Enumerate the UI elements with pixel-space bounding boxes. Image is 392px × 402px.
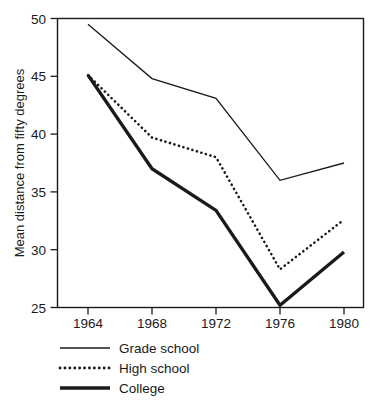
- y-tick-label-50: 50: [31, 12, 46, 27]
- legend-item-grade-school[interactable]: Grade school: [60, 341, 199, 356]
- x-axis-ticks: [88, 308, 344, 315]
- chart-legend: Grade school High school College: [60, 341, 199, 396]
- legend-label-high-school: High school: [119, 361, 190, 376]
- legend-item-college[interactable]: College: [60, 381, 165, 396]
- x-tick-label-1976: 1976: [265, 316, 295, 331]
- y-tick-label-40: 40: [31, 127, 46, 142]
- legend-label-college: College: [119, 381, 165, 396]
- y-tick-label-45: 45: [31, 69, 46, 84]
- series-line-high-school: [88, 75, 344, 269]
- legend-item-high-school[interactable]: High school: [60, 361, 190, 376]
- y-axis-ticks: [51, 19, 58, 308]
- x-tick-label-1964: 1964: [73, 316, 104, 331]
- y-axis-title: Mean distance from fifty degrees: [12, 68, 27, 257]
- y-axis-tick-labels: 50 45 40 35 30 25: [31, 12, 46, 316]
- y-tick-label-30: 30: [31, 243, 46, 258]
- series-group: [88, 24, 344, 305]
- series-line-college: [88, 75, 344, 305]
- y-tick-label-35: 35: [31, 185, 46, 200]
- chart-figure: 50 45 40 35 30 25 Mean distance from fif…: [0, 0, 392, 402]
- legend-label-grade-school: Grade school: [119, 341, 199, 356]
- plot-frame: [58, 19, 364, 308]
- x-tick-label-1972: 1972: [201, 316, 231, 331]
- x-tick-label-1980: 1980: [329, 316, 359, 331]
- x-axis-tick-labels: 1964 1968 1972 1976 1980: [73, 316, 359, 331]
- line-chart: 50 45 40 35 30 25 Mean distance from fif…: [0, 0, 392, 402]
- y-tick-label-25: 25: [31, 301, 46, 316]
- x-tick-label-1968: 1968: [137, 316, 167, 331]
